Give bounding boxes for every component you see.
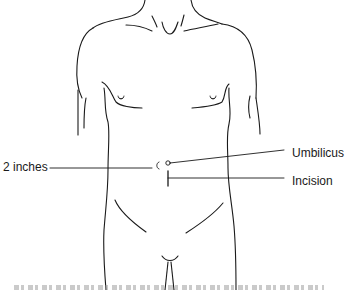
sternal-notch-right: [181, 15, 184, 26]
arm-right-inner: [249, 96, 251, 118]
shoulder-left: [77, 28, 93, 98]
arm-left-inner: [84, 98, 86, 128]
inguinal-line-right: [186, 203, 223, 233]
inguinal-line-left: [115, 200, 146, 232]
nipple-right: [210, 96, 216, 99]
torso-side-right: [227, 88, 236, 290]
incision-label: Incision: [292, 174, 333, 188]
neck-right: [191, 0, 222, 24]
two-inches-label: 2 inches: [3, 160, 48, 174]
clipped-caption-text-fragment: [14, 285, 324, 290]
clavicle-left: [126, 25, 152, 31]
pectoral-left: [102, 82, 142, 108]
torso-side-left: [104, 88, 109, 290]
two-inch-marker: [157, 162, 159, 169]
neck-left: [93, 0, 145, 28]
umbilicus-marker: [166, 161, 170, 165]
nipple-left: [118, 96, 124, 99]
clavicle-right: [184, 24, 218, 31]
umbilicus-leader-line: [170, 150, 284, 163]
pectoral-right: [192, 84, 229, 108]
sternal-notch-left: [152, 16, 157, 27]
clipped-caption: [14, 283, 324, 290]
torso-diagram: [0, 0, 346, 290]
umbilicus-label: Umbilicus: [292, 146, 344, 160]
arm-right-outer: [256, 98, 260, 134]
sternal-notch: [162, 22, 178, 34]
torso-line-drawing: [0, 0, 346, 290]
groin-curve: [162, 256, 178, 261]
